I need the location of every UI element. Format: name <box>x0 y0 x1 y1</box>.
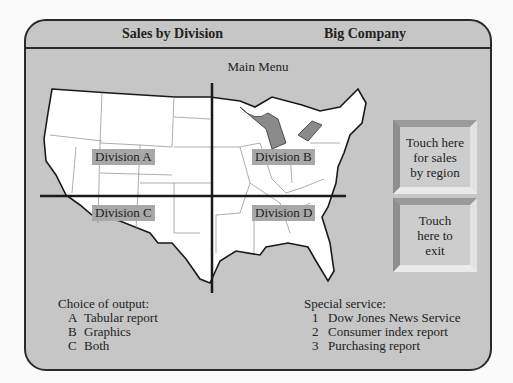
output-choices-title: Choice of output: <box>58 297 158 311</box>
us-map-icon <box>40 83 370 293</box>
us-map: Division A Division B Division C Divisio… <box>40 83 370 293</box>
choice-label: Tabular report <box>84 311 158 325</box>
special-service-2[interactable]: 2 Consumer index report <box>304 325 461 339</box>
service-label: Purchasing report <box>328 339 420 353</box>
output-choice-c[interactable]: C Both <box>58 339 158 353</box>
output-choices: Choice of output: A Tabular report B Gra… <box>58 297 158 353</box>
service-key: 2 <box>312 325 328 339</box>
menu-title: Main Menu <box>26 59 490 75</box>
division-d-label[interactable]: Division D <box>252 205 315 221</box>
choice-key: C <box>68 339 84 353</box>
exit-button-label: Touch here to exit <box>417 213 453 258</box>
special-service-3[interactable]: 3 Purchasing report <box>304 339 461 353</box>
service-label: Consumer index report <box>328 325 448 339</box>
service-key: 3 <box>312 339 328 353</box>
header-bar: Sales by Division Big Company <box>26 21 490 49</box>
header-title-right: Big Company <box>324 26 406 42</box>
division-a-label[interactable]: Division A <box>92 149 155 165</box>
exit-button[interactable]: Touch here to exit <box>393 198 477 272</box>
choice-key: B <box>68 325 84 339</box>
choice-label: Graphics <box>84 325 131 339</box>
sales-by-region-button[interactable]: Touch here for sales by region <box>393 120 477 194</box>
output-choice-b[interactable]: B Graphics <box>58 325 158 339</box>
service-label: Dow Jones News Service <box>328 311 461 325</box>
output-choice-a[interactable]: A Tabular report <box>58 311 158 325</box>
choice-key: A <box>68 311 84 325</box>
special-service-1[interactable]: 1 Dow Jones News Service <box>304 311 461 325</box>
service-key: 1 <box>312 311 328 325</box>
division-c-label[interactable]: Division C <box>92 205 155 221</box>
special-service: Special service: 1 Dow Jones News Servic… <box>304 297 461 353</box>
choice-label: Both <box>84 339 109 353</box>
division-b-label[interactable]: Division B <box>252 149 315 165</box>
sales-by-region-button-label: Touch here for sales by region <box>406 135 464 180</box>
header-title-left: Sales by Division <box>122 26 223 42</box>
touch-screen-frame: Sales by Division Big Company Main Menu <box>24 19 492 371</box>
special-service-title: Special service: <box>304 297 461 311</box>
